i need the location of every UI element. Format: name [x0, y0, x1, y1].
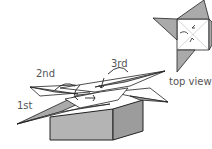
box-front-face [50, 109, 113, 140]
label-3rd: 3rd [111, 58, 128, 69]
label-2nd: 2nd [36, 68, 55, 79]
top-view-diagram [153, 0, 212, 72]
top-view-flap-left [153, 18, 177, 40]
top-view-flap-top [177, 0, 209, 19]
box-side-face [113, 100, 143, 140]
top-view-flap-bottom [177, 50, 195, 72]
label-1st: 1st [17, 100, 33, 111]
top-view-flap-right [209, 19, 212, 50]
origami-diagram [0, 0, 212, 149]
label-top-view: top view [169, 76, 212, 87]
